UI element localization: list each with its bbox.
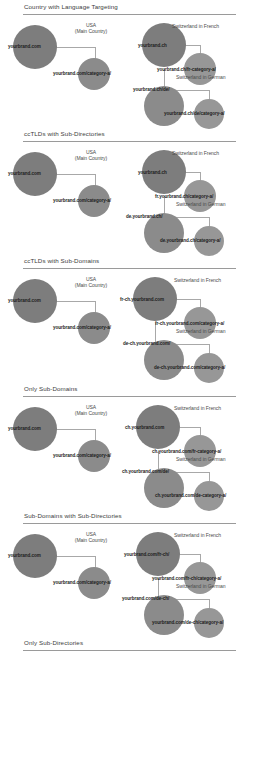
label-main-root: yourbrand.com <box>8 44 41 49</box>
label-de-root: yourbrand.com/de-ch/ <box>122 596 169 601</box>
section-title: Country with Language Targeting <box>24 3 118 10</box>
node-de-root <box>144 468 184 508</box>
label-fr-child: yourbrand.com/fr-ch/category-a/ <box>152 576 221 581</box>
label-de-child: yourbrand.ch/de/category-a/ <box>164 111 224 116</box>
label-fr-child: fr.yourbrand.ch/category-a/ <box>155 194 213 199</box>
node-de-root <box>144 340 184 380</box>
connector <box>175 344 209 345</box>
node-de-root <box>144 86 184 126</box>
caption-switzerland-german: Switzerland in German <box>176 201 255 207</box>
section-title: Only Sub-Directories <box>24 639 83 646</box>
label-main-root: yourbrand.com <box>8 553 41 558</box>
label-main-root: yourbrand.com <box>8 171 41 176</box>
caption-usa: USA (Main Country) <box>63 531 119 543</box>
label-fr-root: yourbrand.ch <box>138 43 167 48</box>
node-de-root <box>144 213 184 253</box>
section-title: Sub-Domains with Sub-Directories <box>24 512 122 519</box>
section-1: Country with Language Targeting yourbran… <box>0 0 255 127</box>
label-de-child: de-ch.yourbrand.com/category-a/ <box>154 365 225 370</box>
label-fr-root: yourbrand.ch <box>138 170 167 175</box>
section-4: Only Sub-Domains yourbrand.com USA (Main… <box>0 382 255 509</box>
diagram-page: Country with Language Targeting yourbran… <box>0 0 255 763</box>
label-main-child: yourbrand.com/category-a/ <box>53 580 111 585</box>
label-main-child: yourbrand.com/category-a/ <box>53 71 111 76</box>
site-structure-diagram: yourbrand.com USA (Main Country) yourbra… <box>0 268 255 381</box>
caption-switzerland-german: Switzerland in German <box>176 328 255 334</box>
section-divider <box>23 650 236 651</box>
label-de-root: yourbrand.ch/de/ <box>133 87 169 92</box>
label-main-root: yourbrand.com <box>8 426 41 431</box>
caption-usa: USA (Main Country) <box>63 404 119 416</box>
caption-switzerland-german: Switzerland in German <box>176 583 255 589</box>
connector <box>175 472 209 473</box>
label-de-root: de-ch.yourbrand.com/ <box>123 341 170 346</box>
site-structure-diagram: yourbrand.com USA (Main Country) yourbra… <box>0 396 255 509</box>
section-5: Sub-Domains with Sub-Directories yourbra… <box>0 509 255 636</box>
connector <box>175 599 209 600</box>
caption-switzerland-french: Switzerland in French <box>174 405 254 411</box>
node-de-root <box>144 595 184 635</box>
label-main-child: yourbrand.com/category-a/ <box>53 453 111 458</box>
label-de-child: ch.yourbrand.com/de-category-a/ <box>155 493 226 498</box>
connector <box>175 90 209 91</box>
section-2: ccTLDs with Sub-Directories yourbrand.co… <box>0 127 255 254</box>
label-de-child: yourbrand.com/de-ch/category-a/ <box>152 620 223 625</box>
section-6: Only Sub-Directories <box>0 636 255 654</box>
label-fr-root: yourbrand.com/fr-ch/ <box>124 552 169 557</box>
section-title: ccTLDs with Sub-Directories <box>24 130 105 137</box>
caption-switzerland-french: Switzerland in French <box>172 23 252 29</box>
connector <box>175 217 209 218</box>
caption-usa: USA (Main Country) <box>63 22 119 34</box>
caption-switzerland-french: Switzerland in French <box>174 532 254 538</box>
label-fr-root: ch.yourbrand.com <box>125 425 164 430</box>
label-de-root: ch.yourbrand.com/de/ <box>122 469 169 474</box>
label-fr-child: fr-ch.yourbrand.com/category-a/ <box>155 321 224 326</box>
label-fr-child: yourbrand.ch/fr-category-a/ <box>157 67 216 72</box>
section-title: ccTLDs with Sub-Domains <box>24 257 99 264</box>
label-main-child: yourbrand.com/category-a/ <box>53 325 111 330</box>
site-structure-diagram: yourbrand.com USA (Main Country) yourbra… <box>0 141 255 254</box>
section-title: Only Sub-Domains <box>24 385 78 392</box>
site-structure-diagram: yourbrand.com USA (Main Country) yourbra… <box>0 523 255 636</box>
section-3: ccTLDs with Sub-Domains yourbrand.com US… <box>0 254 255 381</box>
caption-switzerland-french: Switzerland in French <box>172 150 252 156</box>
label-de-child: de.yourbrand.ch/category-a/ <box>160 238 220 243</box>
caption-usa: USA (Main Country) <box>63 276 119 288</box>
label-fr-root: fr-ch.yourbrand.com <box>120 297 164 302</box>
label-fr-child: ch.yourbrand.com/fr-category-a/ <box>152 449 221 454</box>
caption-usa: USA (Main Country) <box>63 149 119 161</box>
caption-switzerland-german: Switzerland in German <box>176 456 255 462</box>
caption-switzerland-french: Switzerland in French <box>174 277 254 283</box>
label-main-root: yourbrand.com <box>8 298 41 303</box>
site-structure-diagram: yourbrand.com USA (Main Country) yourbra… <box>0 14 255 127</box>
label-main-child: yourbrand.com/category-a/ <box>53 198 111 203</box>
caption-switzerland-german: Switzerland in German <box>176 74 255 80</box>
label-de-root: de.yourbrand.ch/ <box>126 214 162 219</box>
